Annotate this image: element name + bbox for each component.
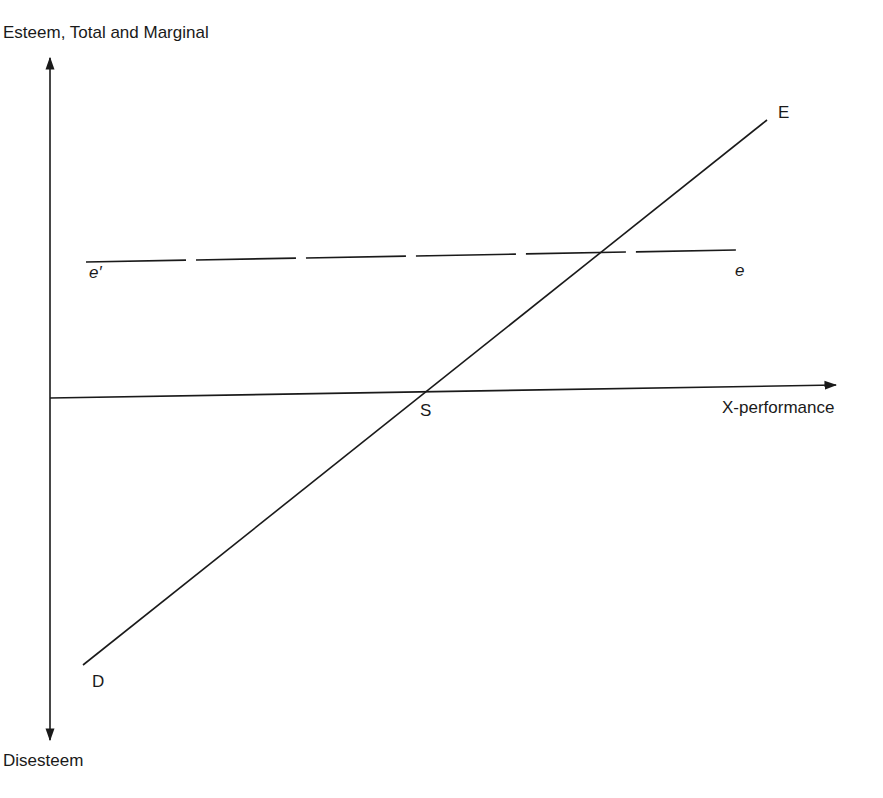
x-axis-label: X-performance xyxy=(722,399,834,416)
label-e-prime: e′ xyxy=(89,264,102,281)
y-axis-label-top: Esteem, Total and Marginal xyxy=(3,24,209,41)
label-S: S xyxy=(420,402,431,419)
label-D: D xyxy=(92,673,104,690)
marginal-esteem-line xyxy=(86,250,738,262)
x-axis xyxy=(50,385,836,398)
total-esteem-line xyxy=(83,120,767,665)
y-axis-label-bottom: Disesteem xyxy=(3,752,83,769)
label-E: E xyxy=(778,104,789,121)
esteem-diagram: Esteem, Total and Marginal Disesteem X-p… xyxy=(0,0,883,798)
label-e: e xyxy=(735,262,744,279)
